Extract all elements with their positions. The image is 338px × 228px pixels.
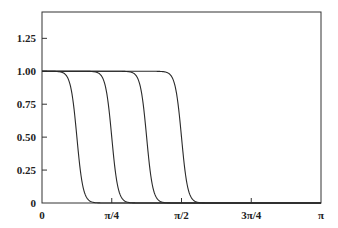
y-tick-label: 1.00 xyxy=(17,65,37,77)
y-tick-label: 0 xyxy=(31,197,37,209)
data-series xyxy=(42,71,321,203)
y-tick-label: 1.25 xyxy=(17,32,37,44)
y-tick-label: 0.50 xyxy=(17,131,37,143)
x-tick-label: 0 xyxy=(39,209,45,221)
plot-frame xyxy=(42,12,321,203)
x-tick-label: π/4 xyxy=(104,209,119,221)
y-tick-label: 0.25 xyxy=(17,164,37,176)
y-tick-label: 0.75 xyxy=(17,98,37,110)
x-tick-label: π xyxy=(318,209,324,221)
series-line-4 xyxy=(42,71,321,203)
line-chart: 00.250.500.751.001.25 0π/4π/23π/4π xyxy=(0,0,338,228)
x-tick-label: π/2 xyxy=(174,209,189,221)
x-tick-label: 3π/4 xyxy=(241,209,262,221)
x-axis: 0π/4π/23π/4π xyxy=(39,198,324,221)
